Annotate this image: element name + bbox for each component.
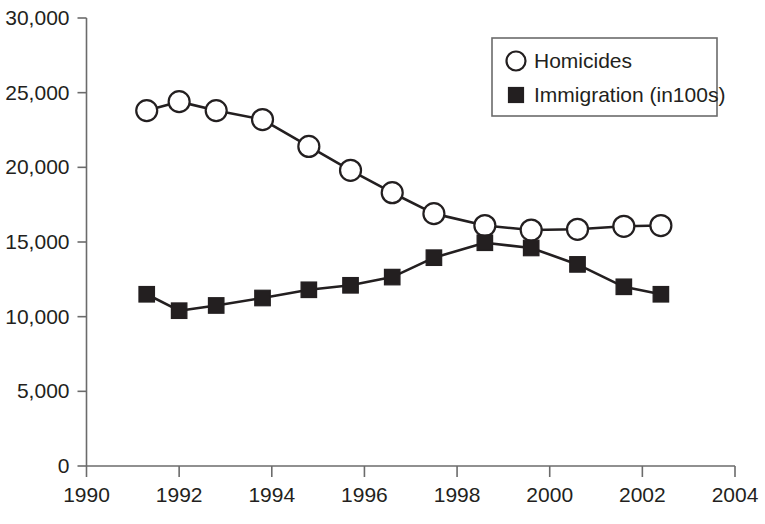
series-line-homicides — [147, 102, 661, 230]
data-point-marker-square — [301, 282, 317, 298]
x-axis-tick-label: 2002 — [619, 483, 666, 506]
series-layer — [136, 91, 671, 318]
x-axis-tick-label: 1994 — [248, 483, 295, 506]
line-chart: 05,00010,00015,00020,00025,00030,000 199… — [0, 0, 765, 524]
data-point-marker-circle — [423, 203, 444, 224]
y-axis-tick-label: 0 — [58, 454, 70, 477]
data-point-marker-square — [570, 257, 586, 273]
x-axis: 19901992199419961998200020022004 — [63, 466, 759, 506]
data-point-marker-square — [523, 240, 539, 256]
data-point-marker-circle — [474, 215, 495, 236]
y-axis: 05,00010,00015,00020,00025,00030,000 — [5, 6, 86, 477]
data-point-marker-square — [139, 287, 155, 303]
x-axis-tick-label: 1998 — [434, 483, 481, 506]
data-point-marker-square — [477, 235, 493, 251]
data-point-marker-circle — [169, 91, 190, 112]
data-point-marker-square — [171, 303, 187, 319]
x-axis-tick-label: 2004 — [712, 483, 759, 506]
x-axis-tick-label: 1992 — [156, 483, 203, 506]
data-point-marker-square — [208, 298, 224, 314]
data-point-marker-circle — [521, 220, 542, 241]
data-point-marker-square — [384, 269, 400, 285]
y-axis-tick-label: 5,000 — [17, 379, 70, 402]
data-point-marker-circle — [298, 136, 319, 157]
data-point-marker-circle — [136, 100, 157, 121]
y-axis-tick-label: 25,000 — [5, 81, 69, 104]
y-axis-tick-label: 10,000 — [5, 305, 69, 328]
chart-legend: HomicidesImmigration (in100s) — [492, 38, 725, 116]
chart-container: 05,00010,00015,00020,00025,00030,000 199… — [0, 0, 765, 524]
x-axis-tick-label: 1990 — [63, 483, 110, 506]
legend-label: Homicides — [534, 49, 632, 72]
x-axis-tick-label: 1996 — [341, 483, 388, 506]
x-axis-tick-label: 2000 — [526, 483, 573, 506]
data-point-marker-circle — [567, 219, 588, 240]
data-point-marker-square — [255, 290, 271, 306]
data-point-marker-square — [343, 278, 359, 294]
legend-marker-circle — [507, 52, 526, 71]
data-point-marker-square — [653, 287, 669, 303]
data-point-marker-circle — [382, 182, 403, 203]
data-point-marker-circle — [340, 160, 361, 181]
data-point-marker-square — [426, 250, 442, 266]
data-point-marker-square — [616, 279, 632, 295]
y-axis-tick-label: 30,000 — [5, 6, 69, 29]
y-axis-tick-label: 15,000 — [5, 230, 69, 253]
legend-label: Immigration (in100s) — [534, 83, 725, 106]
data-point-marker-circle — [613, 216, 634, 237]
y-axis-tick-label: 20,000 — [5, 155, 69, 178]
legend-marker-square — [509, 88, 524, 103]
data-point-marker-circle — [206, 100, 227, 121]
data-point-marker-circle — [252, 109, 273, 130]
data-point-marker-circle — [650, 215, 671, 236]
